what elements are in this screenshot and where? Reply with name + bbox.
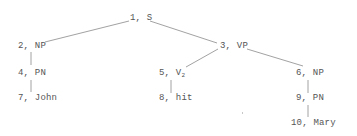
edge-3-6: [247, 49, 303, 66]
node-separator: ,: [226, 41, 237, 51]
edge-3-5: [186, 49, 218, 67]
node-label: NP: [35, 41, 46, 51]
node-10-mary: 10, Mary: [291, 118, 336, 128]
node-separator: ,: [302, 93, 313, 103]
node-1-s: 1, S: [130, 13, 152, 23]
node-8-hit: 8, hit: [159, 93, 193, 103]
syntax-tree: 1, S 2, NP 3, VP 4, PN 5, V2 6, NP 7, Jo…: [0, 0, 357, 136]
node-separator: ,: [24, 68, 35, 78]
node-label: S: [147, 13, 153, 23]
node-label: VP: [237, 41, 248, 51]
node-subscript: 2: [181, 72, 185, 79]
node-label: PN: [313, 93, 324, 103]
edge-1-2: [45, 21, 129, 42]
node-4-pn: 4, PN: [18, 68, 46, 78]
node-separator: ,: [302, 68, 313, 78]
node-label: NP: [313, 68, 324, 78]
node-separator: ,: [302, 118, 313, 128]
node-6-np: 6, NP: [296, 68, 324, 78]
node-7-john: 7, John: [18, 93, 57, 103]
node-9-pn: 9, PN: [296, 93, 324, 103]
node-5-v2: 5, V2: [159, 68, 185, 78]
node-separator: ,: [24, 41, 35, 51]
node-3-vp: 3, VP: [220, 41, 248, 51]
node-number: 10: [291, 118, 302, 128]
node-label: PN: [35, 68, 46, 78]
node-separator: ,: [136, 13, 147, 23]
node-label: John: [35, 93, 57, 103]
node-2-np: 2, NP: [18, 41, 46, 51]
edge-1-3: [150, 21, 217, 43]
node-separator: ,: [24, 93, 35, 103]
node-label: hit: [176, 93, 193, 103]
node-separator: ,: [165, 68, 176, 78]
node-separator: ,: [165, 93, 176, 103]
node-label: Mary: [313, 118, 335, 128]
scan-artifact: [242, 112, 243, 114]
